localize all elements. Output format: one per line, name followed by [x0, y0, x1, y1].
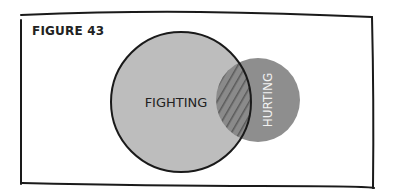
fighting-label: FIGHTING	[145, 95, 208, 110]
figure-title: FIGURE 43	[32, 24, 104, 38]
hurting-label: HURTING	[261, 73, 275, 127]
